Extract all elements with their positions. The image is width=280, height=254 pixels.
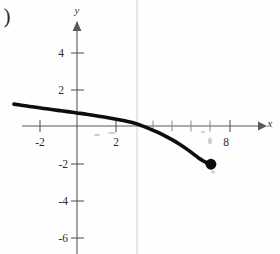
y-tick-label-2: 2 bbox=[58, 84, 64, 96]
x-tick-label-2: 2 bbox=[113, 136, 119, 148]
y-tick-label--2: -2 bbox=[58, 158, 68, 170]
y-axis bbox=[71, 21, 84, 254]
y-tick-label--4: -4 bbox=[58, 195, 68, 207]
function-curve bbox=[14, 104, 211, 164]
x-tick-label--2: -2 bbox=[35, 136, 45, 148]
figure-root: ) bbox=[0, 0, 280, 254]
x-axis-label: x bbox=[267, 117, 273, 129]
y-axis-arrowhead bbox=[73, 21, 82, 31]
y-tick-label--6: -6 bbox=[58, 232, 68, 244]
y-tick-label-4: 4 bbox=[58, 47, 64, 59]
x-axis-arrowhead bbox=[258, 122, 267, 131]
x-tick-label-8: 8 bbox=[223, 136, 229, 148]
graph-plot: x y -2 2 8 4 2 -2 -4 -6 bbox=[0, 0, 280, 254]
endpoint-dot bbox=[206, 159, 217, 170]
y-axis-label: y bbox=[74, 4, 80, 16]
